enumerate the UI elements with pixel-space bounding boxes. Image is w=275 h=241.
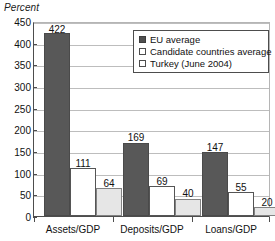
value-label-assets-candidate: 111 (75, 158, 90, 169)
y-tick-350: 350 (3, 60, 31, 71)
plot-area: 422 111 64 169 69 40 147 55 20 EU averag… (33, 22, 270, 217)
legend-swatch-icon-candidate (139, 48, 146, 55)
y-tick-100: 100 (3, 168, 31, 179)
bar-loans-candidate-average (228, 192, 254, 216)
value-label-deposits-candidate: 69 (156, 176, 167, 187)
legend-label-turkey: Turkey (June 2004) (150, 58, 232, 69)
bar-assets-turkey (96, 188, 122, 216)
legend-label-eu: EU average (150, 34, 200, 45)
y-tick-250: 250 (3, 103, 31, 114)
legend-item-candidate-average: Candidate countries average (139, 46, 264, 57)
y-axis: 450 400 350 300 250 200 150 100 50 0 (0, 22, 31, 217)
legend-swatch-icon-turkey (139, 60, 146, 67)
y-tick-0: 0 (3, 212, 31, 223)
y-tick-50: 50 (3, 190, 31, 201)
legend-item-turkey: Turkey (June 2004) (139, 58, 264, 69)
legend-item-eu-average: EU average (139, 34, 264, 45)
value-label-loans-candidate: 55 (235, 182, 246, 193)
x-category-label-assets: Assets/GDP (46, 224, 100, 235)
bar-loans-eu-average (202, 152, 228, 216)
bar-assets-candidate-average (70, 168, 96, 216)
x-category-label-loans: Loans/GDP (205, 224, 257, 235)
y-tick-450: 450 (3, 17, 31, 28)
y-tick-200: 200 (3, 125, 31, 136)
y-axis-title: Percent (4, 2, 39, 13)
bar-deposits-turkey (175, 199, 201, 216)
value-label-deposits-turkey: 40 (182, 188, 193, 199)
bar-deposits-eu-average (123, 143, 149, 216)
bar-chart: Percent 450 400 350 300 250 200 150 100 … (0, 0, 275, 241)
value-label-assets-eu: 422 (49, 24, 66, 35)
x-tickmark-end (269, 217, 270, 222)
y-tick-300: 300 (3, 82, 31, 93)
x-tickmark-start (34, 217, 35, 222)
x-tickmark-1 (113, 217, 114, 222)
bar-deposits-candidate-average (149, 186, 175, 216)
y-tick-150: 150 (3, 147, 31, 158)
bar-assets-eu-average (44, 33, 70, 216)
x-category-label-deposits: Deposits/GDP (120, 224, 183, 235)
legend-swatch-icon-eu (139, 36, 146, 43)
value-label-loans-eu: 147 (207, 142, 224, 153)
x-tickmark-2 (192, 217, 193, 222)
value-label-deposits-eu: 169 (128, 132, 145, 143)
legend-label-candidate: Candidate countries average (150, 46, 271, 57)
bar-loans-turkey (254, 207, 275, 216)
legend: EU average Candidate countries average T… (133, 30, 269, 73)
gridline-450 (34, 23, 269, 24)
value-label-assets-turkey: 64 (103, 178, 114, 189)
value-label-loans-turkey: 20 (261, 197, 272, 208)
y-tick-400: 400 (3, 38, 31, 49)
